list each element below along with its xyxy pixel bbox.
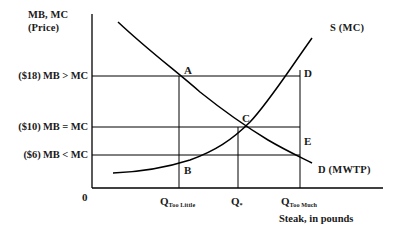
price-label-18: ($18) MB > MC bbox=[2, 71, 88, 82]
diagram-canvas bbox=[0, 0, 401, 240]
q-sub-optimal: * bbox=[240, 201, 243, 208]
price-label-6: ($6) MB < MC bbox=[2, 150, 88, 161]
q-base-too-much: Q bbox=[281, 195, 290, 207]
demand-curve-label: D (MWTP) bbox=[318, 165, 371, 176]
q-base-optimal: Q bbox=[231, 195, 240, 207]
quantity-label-too-little: QToo Little bbox=[160, 196, 195, 207]
origin-label: 0 bbox=[82, 192, 88, 203]
y-axis-title-line2: (Price) bbox=[28, 23, 59, 34]
supply-demand-diagram: MB, MC (Price) ($18) MB > MC ($10) MB = … bbox=[0, 0, 401, 240]
q-sub-too-much: Too Much bbox=[290, 201, 318, 208]
q-base-too-little: Q bbox=[160, 195, 169, 207]
quantity-label-too-much: QToo Much bbox=[281, 196, 317, 207]
supply-curve-label: S (MC) bbox=[330, 23, 364, 34]
q-sub-too-little: Too Little bbox=[169, 201, 196, 208]
x-axis-title: Steak, in pounds bbox=[279, 214, 353, 225]
point-label-e: E bbox=[304, 136, 311, 147]
point-label-c: C bbox=[242, 113, 250, 124]
point-label-a: A bbox=[184, 65, 192, 76]
y-axis-title-line1: MB, MC bbox=[28, 10, 68, 21]
point-label-d: D bbox=[304, 68, 312, 79]
quantity-label-optimal: Q* bbox=[231, 196, 243, 207]
point-label-b: B bbox=[184, 165, 191, 176]
price-label-10: ($10) MB = MC bbox=[2, 122, 88, 133]
demand-curve bbox=[118, 22, 312, 163]
supply-curve bbox=[113, 38, 312, 173]
